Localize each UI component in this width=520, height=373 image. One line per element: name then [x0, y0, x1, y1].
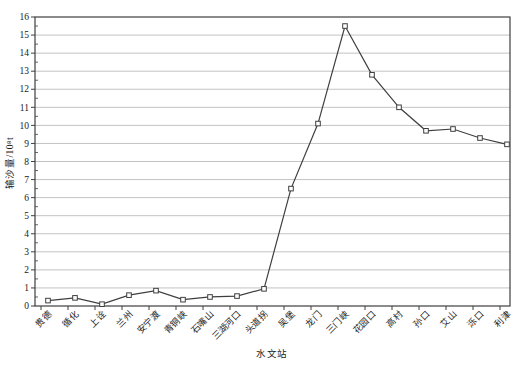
y-tick-label: 7 — [24, 175, 29, 185]
data-point-marker — [262, 287, 267, 292]
y-tick-label: 14 — [20, 48, 30, 58]
x-tick-label: 三湖河口 — [209, 309, 242, 342]
data-point-marker — [235, 294, 240, 299]
data-point-marker — [100, 302, 105, 307]
data-point-marker — [316, 121, 321, 126]
x-tick-label: 石嘴山 — [189, 309, 215, 335]
x-tick-label: 安宁渡 — [135, 309, 162, 336]
y-tick-label: 11 — [20, 103, 29, 113]
x-tick-label: 泺口 — [465, 309, 486, 330]
x-tick-label: 上诠 — [87, 309, 108, 330]
y-tick-label: 5 — [24, 211, 29, 221]
series-line — [48, 26, 507, 304]
x-tick-label: 三门峡 — [324, 309, 351, 336]
x-tick-label: 兰州 — [114, 309, 135, 330]
x-tick-label: 贵德 — [33, 309, 54, 330]
y-tick-label: 15 — [20, 30, 30, 40]
x-tick-label: 龙门 — [303, 309, 324, 330]
x-axis-labels: 贵德循化上诠兰州安宁渡青铜峡石嘴山三湖河口头道拐吴堡龙门三门峡花园口高村孙口艾山… — [33, 309, 513, 342]
y-tick-label: 12 — [20, 84, 30, 94]
y-tick-label: 9 — [24, 139, 29, 149]
y-tick-label: 2 — [24, 265, 29, 275]
x-tick-label: 吴堡 — [276, 309, 297, 330]
y-tick-label: 10 — [20, 121, 30, 131]
x-tick-label: 循化 — [60, 309, 81, 330]
data-point-marker — [478, 136, 483, 141]
data-series — [46, 24, 510, 307]
data-point-marker — [451, 127, 456, 132]
y-tick-label: 8 — [24, 157, 29, 167]
data-point-marker — [73, 296, 78, 301]
x-tick-label: 艾山 — [439, 309, 459, 329]
x-tick-label: 青铜峡 — [162, 309, 189, 336]
data-point-marker — [127, 293, 132, 298]
data-point-marker — [505, 142, 510, 147]
x-tick-label: 头道拐 — [243, 309, 270, 336]
data-point-marker — [370, 73, 375, 78]
data-point-marker — [208, 295, 213, 300]
data-point-marker — [343, 24, 348, 29]
y-tick-label: 1 — [24, 283, 29, 293]
data-point-marker — [289, 186, 294, 191]
y-tick-label: 3 — [24, 247, 29, 257]
x-tick-label: 孙口 — [411, 309, 432, 330]
y-tick-label: 16 — [20, 12, 30, 22]
figure: 012345678910111213141516贵德循化上诠兰州安宁渡青铜峡石嘴… — [0, 0, 520, 373]
x-axis-title: 水文站 — [256, 346, 288, 360]
data-point-marker — [397, 105, 402, 110]
data-point-marker — [181, 297, 186, 302]
x-tick-label: 利津 — [492, 309, 513, 330]
x-tick-label: 高村 — [384, 309, 405, 330]
y-tick-label: 6 — [24, 193, 29, 203]
y-axis-title: 输沙量/10⁸t — [2, 137, 16, 189]
x-tick-label: 花园口 — [351, 309, 378, 336]
data-point-marker — [424, 128, 429, 133]
gridlines — [35, 35, 510, 288]
y-tick-label: 4 — [24, 229, 29, 239]
data-point-marker — [154, 288, 159, 293]
data-point-marker — [46, 298, 51, 303]
y-tick-label: 13 — [20, 66, 30, 76]
y-tick-label: 0 — [24, 301, 29, 311]
sediment-line-chart: 012345678910111213141516贵德循化上诠兰州安宁渡青铜峡石嘴… — [0, 0, 520, 373]
